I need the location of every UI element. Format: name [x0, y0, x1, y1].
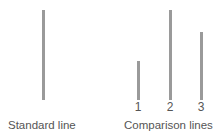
comparison-number-2: 2 — [164, 100, 176, 114]
comparison-number-3: 3 — [195, 100, 207, 114]
comparison-line-3 — [200, 32, 203, 100]
comparison-line-1 — [137, 61, 140, 100]
standard-line — [42, 10, 45, 100]
comparison-number-1: 1 — [132, 100, 144, 114]
comparison-lines-caption: Comparison lines — [124, 119, 213, 131]
comparison-line-2 — [169, 10, 172, 100]
standard-line-caption: Standard line — [8, 119, 76, 131]
